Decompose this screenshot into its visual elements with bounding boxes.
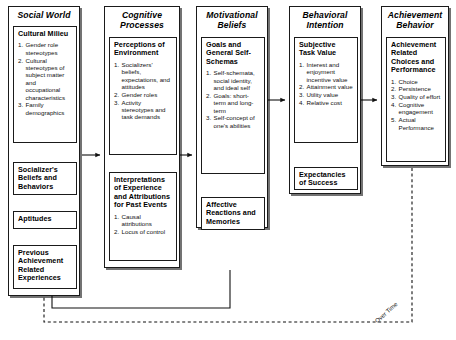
- list-item: 2.Cultural stereotypes of subject matter…: [18, 57, 72, 101]
- box-socializers-beliefs: Socializer's Beliefs and Behaviors: [13, 162, 77, 195]
- list-perceptions-of-environment: 1.Socializers' beliefs, expectations, an…: [114, 61, 172, 121]
- box-subjective-task-value: Subjective Task Value 1.Interest and enj…: [294, 37, 358, 143]
- box-cultural-milieu: Cultural Milieu 1.Gender role stereotype…: [13, 26, 77, 143]
- box-title-perceptions-of-environment: Perceptions of Environment: [114, 41, 172, 58]
- box-title-socializers-beliefs: Socializer's Beliefs and Behaviors: [18, 166, 72, 191]
- list-item: 1.Causal attributions: [114, 213, 172, 228]
- box-title-cultural-milieu: Cultural Milieu: [18, 30, 72, 38]
- box-previous-achievement: Previous Achievement Related Experiences: [13, 245, 77, 289]
- list-item: 4.Relative cost: [299, 99, 353, 106]
- list-item: 1.Self-schemata, social identity, and id…: [206, 69, 260, 91]
- list-item: 3.Activity stereotypes and task demands: [114, 99, 172, 121]
- box-title-previous-achievement: Previous Achievement Related Experiences: [18, 249, 72, 283]
- list-item: 2.Persistence: [391, 85, 441, 92]
- list-item: 3.Self-concept of one's abilities: [206, 114, 260, 129]
- list-item: 1.Gender role stereotypes: [18, 41, 72, 56]
- box-title-affective-reactions: Affective Reactions and Memories: [206, 201, 260, 226]
- list-item: 1.Interest and enjoyment incentive value: [299, 61, 353, 83]
- column-achievement-behavior: Achievement Behavior Achievement Related…: [381, 6, 449, 166]
- column-header-motivational-beliefs: Motivational Beliefs: [197, 7, 267, 33]
- box-title-aptitudes: Aptitudes: [18, 215, 72, 223]
- box-expectancies-of-success: Expectancies of Success: [294, 167, 358, 190]
- list-item: 3.Utility value: [299, 91, 353, 98]
- box-affective-reactions: Affective Reactions and Memories: [201, 197, 265, 230]
- box-title-interpretations-of-experience: Interpretations of Experience and Attrib…: [114, 176, 172, 210]
- column-header-achievement-behavior: Achievement Behavior: [382, 7, 448, 33]
- column-social-world: Social World Cultural Milieu 1.Gender ro…: [8, 6, 80, 296]
- list-item: 1.Choice: [391, 78, 441, 85]
- list-goals-and-self-schemas: 1.Self-schemata, social identity, and id…: [206, 69, 260, 129]
- list-subjective-task-value: 1.Interest and enjoyment incentive value…: [299, 61, 353, 107]
- column-header-social-world: Social World: [9, 7, 79, 24]
- column-header-cognitive-processes: Cognitive Processes: [105, 7, 179, 33]
- list-item: 3.Family demographics: [18, 101, 72, 116]
- box-goals-and-self-schemas: Goals and General Self-Schemas 1.Self-sc…: [201, 37, 265, 174]
- list-item: 4.Cognitive engagement: [391, 101, 441, 116]
- box-perceptions-of-environment: Perceptions of Environment 1.Socializers…: [109, 37, 177, 155]
- list-interpretations-of-experience: 1.Causal attributions 2.Locus of control: [114, 213, 172, 236]
- list-item: 2.Locus of control: [114, 228, 172, 235]
- list-item: 2.Gender roles: [114, 91, 172, 98]
- list-achievement-choices: 1.Choice 2.Persistence 3.Quality of effo…: [391, 78, 441, 131]
- expectancy-value-diagram: Social World Cultural Milieu 1.Gender ro…: [0, 0, 456, 340]
- feedback-loop-label: Over Time: [374, 301, 399, 324]
- list-item: 1.Socializers' beliefs, expectations, an…: [114, 61, 172, 91]
- column-cognitive-processes: Cognitive Processes Perceptions of Envir…: [104, 6, 180, 268]
- column-motivational-beliefs: Motivational Beliefs Goals and General S…: [196, 6, 268, 228]
- list-item: 5.Actual Performance: [391, 116, 441, 131]
- box-title-achievement-choices: Achievement Related Choices and Performa…: [391, 41, 441, 75]
- box-interpretations-of-experience: Interpretations of Experience and Attrib…: [109, 172, 177, 261]
- box-title-expectancies-of-success: Expectancies of Success: [299, 171, 353, 188]
- column-behavioral-intention: Behavioral Intention Subjective Task Val…: [289, 6, 361, 194]
- list-cultural-milieu: 1.Gender role stereotypes 2.Cultural ste…: [18, 41, 72, 116]
- box-aptitudes: Aptitudes: [13, 211, 77, 229]
- box-title-subjective-task-value: Subjective Task Value: [299, 41, 353, 58]
- list-item: 2.Goals: short-term and long-term: [206, 92, 260, 114]
- box-achievement-choices: Achievement Related Choices and Performa…: [386, 37, 446, 162]
- column-header-behavioral-intention: Behavioral Intention: [290, 7, 360, 33]
- list-item: 3.Quality of effort: [391, 93, 441, 100]
- box-title-goals-and-self-schemas: Goals and General Self-Schemas: [206, 41, 260, 66]
- list-item: 2.Attainment value: [299, 83, 353, 90]
